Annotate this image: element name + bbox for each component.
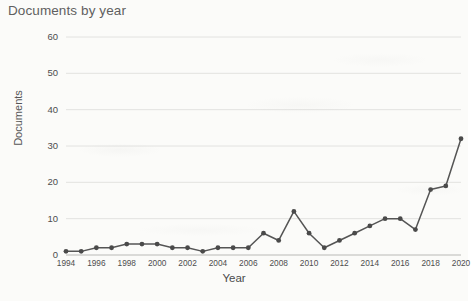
data-point xyxy=(307,231,312,236)
x-tick-label: 1998 xyxy=(110,259,144,267)
data-point xyxy=(216,245,221,250)
y-tick-label: 40 xyxy=(32,105,58,115)
data-point xyxy=(352,231,357,236)
data-point xyxy=(322,245,327,250)
data-point xyxy=(413,227,418,232)
data-point xyxy=(398,216,403,221)
x-tick-label: 2004 xyxy=(201,259,235,267)
data-point xyxy=(185,245,190,250)
data-point xyxy=(64,249,69,254)
data-point xyxy=(109,245,114,250)
data-point xyxy=(459,136,464,141)
data-point xyxy=(337,238,342,243)
x-tick-label: 1996 xyxy=(79,259,113,267)
data-point xyxy=(94,245,99,250)
data-point xyxy=(231,245,236,250)
x-tick-label: 2018 xyxy=(414,259,448,267)
x-tick-label: 2020 xyxy=(444,259,475,267)
data-point xyxy=(291,209,296,214)
y-tick-label: 20 xyxy=(32,177,58,187)
data-point xyxy=(155,242,160,247)
x-tick-label: 2006 xyxy=(231,259,265,267)
y-tick-label: 30 xyxy=(32,141,58,151)
data-point xyxy=(261,231,266,236)
data-point xyxy=(124,242,129,247)
data-point xyxy=(276,238,281,243)
page-caption-clipped xyxy=(0,292,468,301)
data-point xyxy=(140,242,145,247)
x-tick-label: 2014 xyxy=(353,259,387,267)
data-point xyxy=(428,187,433,192)
x-tick-label: 2010 xyxy=(292,259,326,267)
x-tick-label: 2016 xyxy=(383,259,417,267)
data-point xyxy=(367,224,372,229)
x-tick-label: 1994 xyxy=(49,259,83,267)
data-point xyxy=(170,245,175,250)
y-tick-label: 50 xyxy=(32,68,58,78)
x-tick-label: 2000 xyxy=(140,259,174,267)
data-point xyxy=(383,216,388,221)
x-axis-title: Year xyxy=(0,272,468,284)
data-point xyxy=(246,245,251,250)
x-tick-label: 2012 xyxy=(322,259,356,267)
y-axis-title: Documents xyxy=(12,68,24,168)
data-point xyxy=(443,184,448,189)
x-tick-label: 2002 xyxy=(171,259,205,267)
data-point xyxy=(200,249,205,254)
y-tick-label: 10 xyxy=(32,214,58,224)
x-tick-label: 2008 xyxy=(262,259,296,267)
data-point xyxy=(79,249,84,254)
y-tick-label: 60 xyxy=(32,32,58,42)
